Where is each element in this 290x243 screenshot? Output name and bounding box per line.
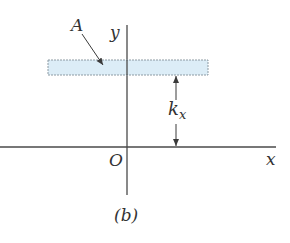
origin-label: O: [109, 150, 123, 170]
figure-caption: (b): [114, 205, 138, 225]
distance-label-main: k: [168, 98, 179, 119]
diagram-canvas: A y kx O x (b): [0, 0, 290, 243]
y-axis-label: y: [109, 22, 120, 42]
plate-area-rectangle: [48, 60, 208, 75]
distance-label-subscript: x: [179, 107, 187, 122]
x-axis-label: x: [266, 149, 276, 169]
plate-label: A: [69, 15, 83, 35]
distance-label: kx: [168, 98, 187, 122]
